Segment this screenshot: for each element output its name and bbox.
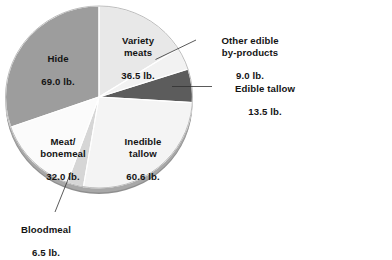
slice-value-bloodmeal: 6.5 lb. [2,247,90,258]
pie-slice-inedible-tallow[interactable] [83,97,192,188]
